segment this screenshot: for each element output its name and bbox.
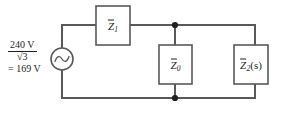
circuit-diagram: Z1 Z0 Z2(s) 240 V √3 = 169 V	[0, 0, 281, 115]
source-voltage-denominator: √3	[8, 52, 37, 63]
source-voltage-result: = 169 V	[8, 64, 41, 74]
source-voltage-fraction: 240 V √3	[8, 40, 37, 62]
source-voltage-numerator: 240 V	[8, 40, 37, 52]
impedance-label-z2: Z2(s)	[240, 60, 262, 71]
circuit-schematic-canvas	[0, 0, 281, 115]
junction-node-bottom	[172, 95, 178, 101]
impedance-label-z0: Z0	[170, 60, 180, 71]
radicand: 3	[23, 51, 28, 62]
z1-subscript: 1	[114, 25, 118, 34]
impedance-label-z1: Z1	[108, 21, 118, 32]
source-voltage-label: 240 V √3 = 169 V	[8, 40, 41, 74]
junction-node-top	[172, 22, 178, 28]
z2-subscript: 2	[247, 64, 251, 73]
z2-argument: (s)	[250, 59, 262, 71]
z0-subscript: 0	[177, 64, 181, 73]
